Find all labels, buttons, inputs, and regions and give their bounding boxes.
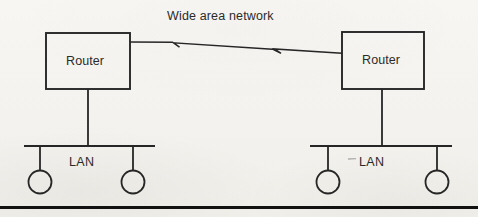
lan-left-label: LAN: [69, 156, 95, 169]
network-diagram-canvas: Wide area network Router Router LAN LAN: [0, 0, 478, 217]
lan-right-host-2-node: [426, 171, 449, 194]
diagram-vector-layer: [0, 0, 478, 217]
wan-title-label: Wide area network: [167, 10, 274, 23]
router-right-label: Router: [362, 54, 400, 67]
lan-left-host-1-node: [29, 171, 52, 194]
lan-right-host-1-node: [317, 171, 340, 194]
lan-left-host-2-node: [122, 171, 145, 194]
router-left-label: Router: [66, 55, 104, 68]
lan-right-label: LAN: [359, 156, 385, 169]
wan-link-line: [130, 42, 342, 53]
